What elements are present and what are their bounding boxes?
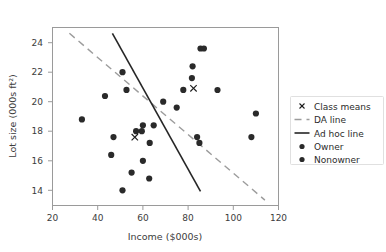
- x-tick-label: 100: [225, 213, 242, 223]
- y-tick-label: 22: [32, 67, 43, 77]
- y-tick-label: 24: [32, 38, 44, 48]
- y-tick-label: 16: [32, 156, 44, 166]
- y-axis-title: Lot size (000s ft²): [7, 74, 18, 157]
- legend-label: Class means: [314, 102, 371, 112]
- x-tick-label: 120: [270, 213, 287, 223]
- y-tick-label: 14: [32, 186, 44, 196]
- legend: Class means DA line Ad hoc line Owner No…: [291, 97, 384, 166]
- x-tick-label: 40: [92, 213, 104, 223]
- x-tick-label: 60: [137, 213, 149, 223]
- legend-label: Owner: [314, 142, 344, 152]
- x-axis-title: Income ($000s): [128, 231, 203, 242]
- scatter-plot-figure: 20 40 60 80 100 120 14 16 18 20 22 24 In…: [0, 0, 386, 252]
- legend-label: DA line: [314, 115, 346, 125]
- legend-label: Ad hoc line: [314, 129, 364, 139]
- legend-label: Nonowner: [314, 155, 360, 165]
- y-tick-label: 20: [32, 97, 44, 107]
- chart-canvas: 20 40 60 80 100 120 14 16 18 20 22 24 In…: [0, 0, 386, 252]
- x-tick-label: 20: [47, 213, 59, 223]
- dot-marker-icon: [299, 144, 304, 149]
- x-tick-label: 80: [182, 213, 194, 223]
- dot-marker-icon: [299, 157, 304, 162]
- y-tick-label: 18: [32, 126, 44, 136]
